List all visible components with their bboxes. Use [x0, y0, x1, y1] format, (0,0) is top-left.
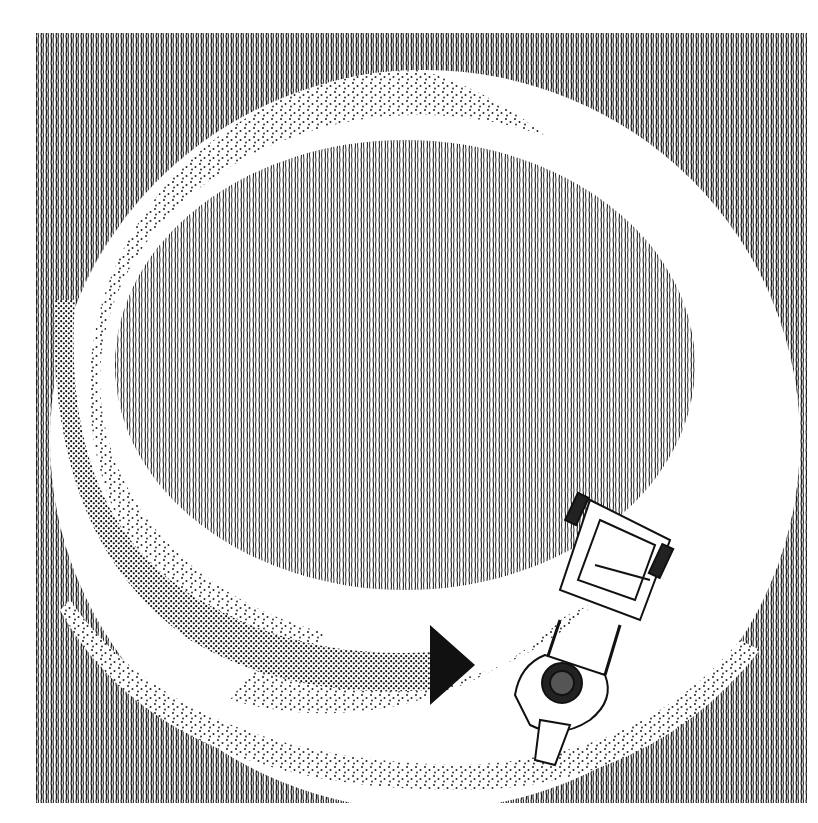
- illustration-canvas: [0, 0, 818, 823]
